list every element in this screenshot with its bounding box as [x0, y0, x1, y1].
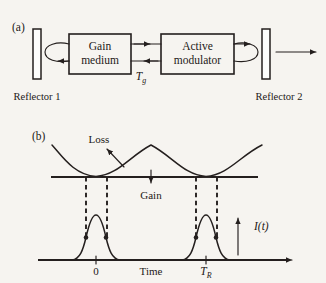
- pulse-1-marker-left: [84, 235, 89, 240]
- loss-curve: [52, 145, 262, 177]
- pulse-2-curve: [182, 215, 230, 260]
- pulse-1-marker-right: [104, 235, 109, 240]
- reflector-1-mirror: [33, 29, 41, 79]
- gain-medium-label-line2: medium: [81, 54, 119, 66]
- loss-pointer-arrow: [107, 149, 124, 167]
- active-modulator-label-line2: modulator: [174, 54, 221, 66]
- panel-b: (b) Loss Gain: [32, 130, 292, 280]
- panel-b-tag: (b): [32, 130, 46, 143]
- reflector-2-label: Reflector 2: [256, 91, 303, 102]
- figure-svg: Gain medium Active modulator: [0, 0, 326, 283]
- intensity-argument: (t): [258, 220, 269, 233]
- reflector-2-mirror: [262, 29, 270, 79]
- transit-time-label: Tg: [136, 70, 146, 85]
- time-axis-label: Time: [140, 265, 163, 277]
- transit-time-subscript: g: [142, 76, 146, 85]
- pulse-1-curve: [72, 215, 120, 260]
- intensity-label: I(t): [253, 220, 269, 233]
- period-subscript: R: [206, 271, 212, 280]
- figure-container: Gain medium Active modulator: [0, 0, 326, 283]
- gain-medium-label-line1: Gain: [89, 40, 112, 52]
- reflector-1-label: Reflector 1: [14, 91, 61, 102]
- gain-label: Gain: [140, 189, 162, 201]
- pulse-2-marker-left: [194, 235, 199, 240]
- panel-a-tag: (a): [12, 21, 25, 34]
- pulse-2-marker-right: [214, 235, 219, 240]
- panel-a: Gain medium Active modulator: [12, 21, 316, 102]
- active-modulator-label-line1: Active: [182, 40, 213, 52]
- left-turnaround-loop: [45, 43, 69, 62]
- loss-label: Loss: [89, 133, 110, 145]
- origin-tick-label: 0: [93, 265, 99, 277]
- period-tick-label: TR: [200, 265, 211, 280]
- right-turnaround-loop: [234, 43, 258, 62]
